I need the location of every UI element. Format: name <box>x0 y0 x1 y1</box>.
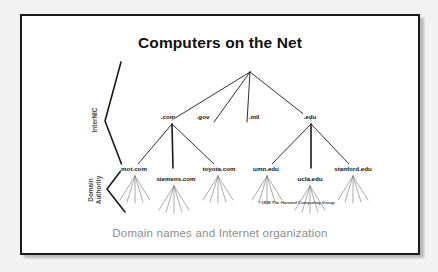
edge-com-mot <box>138 124 172 164</box>
node-label-edu: .edu <box>303 113 317 120</box>
bracket-internic <box>105 62 123 168</box>
node-label-com: .com <box>160 113 175 120</box>
host-fan-toyota-com <box>203 176 233 203</box>
edge-com-siemens <box>172 124 173 168</box>
host-fan-stanford-edu <box>338 176 368 203</box>
side-label-internic: InterNIC <box>91 108 99 133</box>
edge-edu-stanford <box>311 124 349 164</box>
node-label-toyota-com: toyota.com <box>202 165 236 172</box>
edge-edu-umn <box>272 124 311 164</box>
slide-frame: Computers on the Net <box>20 14 420 255</box>
bracket-domain-authority <box>107 168 125 212</box>
node-label-siemens-com: siemens.com <box>156 175 196 182</box>
edge-root-com <box>172 72 250 120</box>
host-fan-mot-com <box>120 176 150 203</box>
copyright-notice: ©1998 The Harvard Computing Group <box>258 200 335 205</box>
host-fan-umn-edu <box>252 176 282 203</box>
node-label-mil: .mil <box>248 113 260 120</box>
edge-com-toyota <box>172 124 214 164</box>
node-label-stanford-edu: stanford.edu <box>334 165 372 172</box>
tree-line-art <box>22 16 418 252</box>
side-label-domain-authority-line2: Authority <box>94 176 102 204</box>
diagram-canvas: Computers on the Net <box>22 16 418 252</box>
side-label-domain-authority-line1: Domain <box>87 176 95 204</box>
node-label-gov: .gov <box>196 113 210 120</box>
node-label-umn-edu: umn.edu <box>253 165 280 172</box>
slide-page: Computers on the Net <box>0 0 438 272</box>
side-label-domain-authority: Domain Authority <box>87 176 102 204</box>
node-label-ucla-edu: ucla.edu <box>297 175 323 182</box>
figure-caption: Domain names and Internet organization <box>22 227 418 239</box>
edge-root-gov <box>214 72 250 122</box>
host-fan-siemens-com <box>159 186 189 213</box>
node-label-mot-com: mot.com <box>121 165 148 172</box>
